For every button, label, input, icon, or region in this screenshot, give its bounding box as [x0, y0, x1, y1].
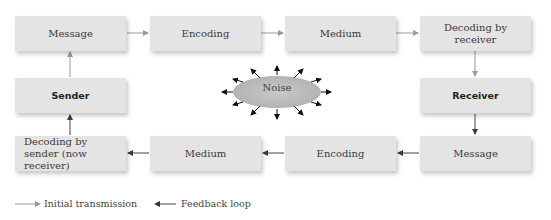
node-encoding: Encoding: [150, 16, 261, 51]
node-label: Encoding: [182, 28, 230, 40]
node-label: Medium: [185, 148, 227, 160]
node-receiver: Receiver: [420, 78, 531, 113]
node-label: Encoding: [317, 148, 365, 160]
node-encoding-feedback: Encoding: [285, 136, 396, 171]
legend-label: Feedback loop: [181, 198, 251, 209]
node-label: Medium: [320, 28, 362, 40]
node-label: Receiver: [452, 90, 498, 102]
node-decoding-by-sender: Decoding by sender (now receiver): [15, 136, 126, 171]
node-label: Decoding by sender (now receiver): [24, 136, 122, 172]
node-decoding-by-receiver: Decoding by receiver: [420, 16, 531, 51]
node-message-feedback: Message: [420, 136, 531, 171]
node-medium: Medium: [285, 16, 396, 51]
node-label: Message: [48, 28, 93, 40]
legend-label: Initial transmission: [44, 198, 137, 209]
initial-arrow-icon: [15, 200, 41, 208]
node-label: Decoding by receiver: [424, 22, 527, 46]
node-sender: Sender: [15, 78, 126, 113]
node-label: Message: [453, 148, 498, 160]
feedback-arrow-icon: [154, 200, 178, 208]
noise-label: Noise: [252, 82, 302, 93]
node-label: Sender: [52, 90, 90, 102]
node-medium-feedback: Medium: [150, 136, 261, 171]
legend-feedback-loop: Feedback loop: [154, 198, 251, 209]
node-message: Message: [15, 16, 126, 51]
legend-initial-transmission: Initial transmission: [15, 198, 137, 209]
